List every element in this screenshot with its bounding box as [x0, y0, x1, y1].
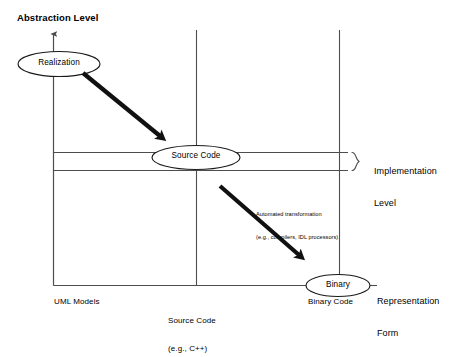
- node-realization-label: Realization: [18, 58, 100, 67]
- automated-transformation-annotation-line2: (e.g., compilers, IDL processors): [256, 234, 338, 242]
- implementation-brace: [352, 153, 359, 171]
- automated-transformation-annotation: Automated transformation (e.g., compiler…: [256, 196, 338, 256]
- x-tick-label-binary-code: Binary Code: [308, 297, 353, 306]
- node-binary-label: Binary: [305, 280, 371, 289]
- x-tick-label-source-code-line2: (e.g., C++): [168, 344, 216, 353]
- representation-form-label-line1: Representation: [377, 296, 439, 307]
- representation-form-label: Representation Form: [377, 275, 439, 357]
- node-source-code-label: Source Code: [152, 151, 240, 160]
- automated-transformation-annotation-line1: Automated transformation: [256, 211, 338, 219]
- y-axis-label: Abstraction Level: [17, 12, 98, 23]
- x-tick-label-uml-models: UML Models: [54, 297, 100, 306]
- x-tick-label-source-code-line1: Source Code: [168, 316, 216, 325]
- implementation-level-label-line1: Implementation: [374, 166, 437, 177]
- representation-form-label-line2: Form: [377, 328, 439, 339]
- implementation-level-label: Implementation Level: [374, 145, 437, 230]
- realization-arrow: [83, 73, 160, 136]
- x-tick-label-source-code: Source Code (e.g., C++): [168, 297, 216, 357]
- implementation-level-label-line2: Level: [374, 198, 437, 209]
